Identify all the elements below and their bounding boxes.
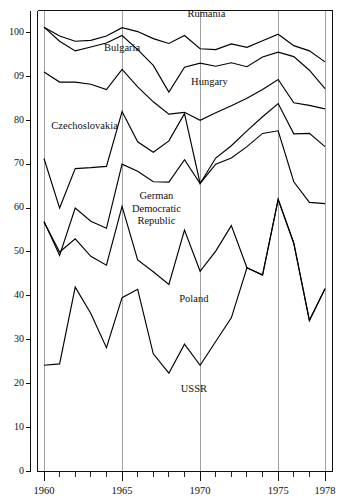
series-label-hungary: Hungary (191, 76, 228, 87)
y-tick-label-100: 100 (9, 26, 24, 37)
x-tick-label-1975: 1975 (268, 485, 289, 496)
x-tick-label-1960: 1960 (34, 485, 55, 496)
series-label-line: German (139, 190, 174, 201)
line-chart: 0102030405060708009100196019651970197519… (0, 0, 339, 501)
y-tick-label-60: 60 (14, 201, 24, 212)
y-tick-label-50: 50 (14, 245, 24, 256)
series-label-line: Hungary (191, 76, 228, 87)
series-line-rumania (44, 27, 325, 62)
chart-canvas: 0102030405060708009100196019651970197519… (0, 0, 339, 501)
series-label-line: Democratic (132, 203, 181, 214)
series-line-ussr (44, 199, 325, 373)
series-label-line: Rumania (187, 8, 225, 19)
series-label-line: Republic (137, 215, 175, 226)
series-label-rumania: Rumania (187, 8, 225, 19)
series-label-ussr: USSR (181, 383, 207, 394)
y-tick-label-70: 70 (14, 157, 24, 168)
x-tick-label-1978: 1978 (315, 485, 336, 496)
series-line-german-democratic-republic (44, 131, 325, 256)
y-tick-label-20: 20 (14, 377, 24, 388)
y-tick-label-90: 09 (14, 70, 24, 81)
series-label-german-democratic-republic: GermanDemocraticRepublic (132, 190, 181, 226)
series-label-line: USSR (181, 383, 207, 394)
y-tick-label-0: 0 (19, 465, 24, 476)
series-label-czechoslovakia: Czechoslovakia (51, 120, 118, 131)
y-tick-label-10: 10 (14, 421, 24, 432)
series-label-line: Bulgaria (104, 42, 140, 53)
series-label-line: Poland (179, 293, 209, 304)
y-tick-label-30: 30 (14, 333, 24, 344)
x-tick-label-1965: 1965 (112, 485, 133, 496)
series-label-poland: Poland (179, 293, 209, 304)
y-tick-label-80: 80 (14, 114, 24, 125)
y-tick-label-40: 40 (14, 289, 24, 300)
series-label-line: Czechoslovakia (51, 120, 118, 131)
x-tick-label-1970: 1970 (190, 485, 211, 496)
series-label-bulgaria: Bulgaria (104, 42, 140, 53)
